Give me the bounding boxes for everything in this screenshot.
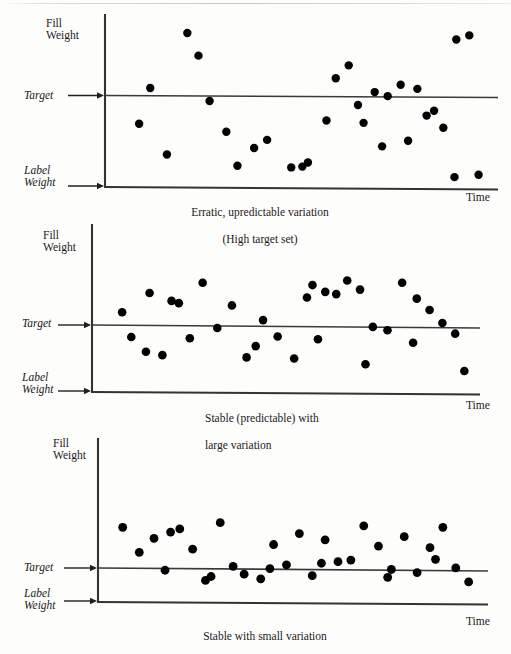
label-weight-label-2: Label Weight [22,372,54,396]
data-point [161,566,170,575]
data-point [346,556,355,565]
data-point [118,308,127,317]
data-point [383,92,391,100]
data-point [332,74,340,82]
data-point [369,323,378,332]
data-point [216,518,225,527]
data-point [308,281,317,290]
chart-panel-erratic: Fill Weight Target Label Weight Time Err… [0,0,511,220]
data-point [259,316,268,325]
chart-panel-stable-small: Fill Weight Target Label Weight Time Sta… [0,430,511,654]
data-point [452,35,460,43]
target-arrow-head [97,92,104,98]
label-weight-line2: Weight [24,600,56,612]
data-point [371,88,379,96]
data-point [142,347,151,356]
data-point [146,84,154,92]
figure-page: Fill Weight Target Label Weight Time Err… [0,0,511,654]
data-point [430,107,438,115]
data-point [229,562,238,571]
data-point [451,329,460,338]
data-point [451,564,460,573]
data-point [242,353,251,362]
target-arrow-head [84,322,91,328]
x-axis [104,187,498,190]
data-point [269,540,278,549]
data-point [321,288,330,297]
data-point [163,150,171,158]
data-point [127,333,136,342]
data-point [158,351,167,360]
data-point [167,297,176,306]
data-point [251,342,260,351]
target-reference-line [98,568,488,571]
y-axis-label-fill-weight-2: Fill Weight [43,230,76,254]
x-axis-label-time-3: Time [466,616,490,628]
data-point [233,162,241,170]
data-point [175,525,184,534]
data-point [396,81,404,89]
data-point [431,555,440,564]
data-point [412,294,421,303]
data-point [256,574,265,583]
x-axis [91,392,480,395]
data-point [222,128,230,136]
data-point [356,285,365,294]
data-point [194,51,202,59]
data-point [198,279,207,288]
label-weight-line2: Weight [24,177,56,189]
data-point [450,173,458,181]
data-point [343,276,352,285]
label-weight-label-3: Label Weight [24,588,56,612]
y-axis-label-line2: Weight [43,242,76,254]
data-point [186,334,195,343]
label-weight-arrow-head [90,598,97,604]
target-arrow-head [90,565,97,571]
data-point [145,289,154,298]
data-point [166,528,175,537]
data-point [207,572,216,581]
caption-line-1: Erratic, upredictable variation [140,206,380,220]
data-point [378,142,386,150]
x-axis-label-time-1: Time [466,192,490,204]
chart-caption-stable-small: Stable with small variation [160,616,370,654]
data-point [361,360,370,369]
target-reference-line [92,325,480,328]
data-point [332,290,341,299]
data-point [425,306,434,315]
caption-line-1: Stable (predictable) with [205,412,435,426]
data-point [282,560,291,569]
data-point [334,557,343,566]
y-axis-label-fill-weight-3: Fill Weight [53,438,86,462]
data-point [322,116,330,124]
label-weight-line2: Weight [22,384,54,396]
data-point [398,279,407,288]
data-point [359,119,367,127]
data-point [426,543,435,552]
data-point [175,299,184,308]
data-point [303,293,312,302]
data-point [298,162,306,170]
data-point [240,570,249,579]
data-point [266,564,275,573]
caption-line-1: Stable with small variation [160,630,370,644]
target-label-3: Target [24,562,53,574]
data-point [474,171,482,179]
scatter-plot-stable-large [0,222,511,427]
data-point [317,559,326,568]
data-point-group [135,29,483,182]
data-point [290,354,299,363]
y-axis-label-fill-weight-1: Fill Weight [46,18,79,42]
data-point [400,532,409,541]
data-point-group [118,518,473,586]
data-point [295,529,304,538]
target-label-1: Target [24,90,53,102]
data-point [321,535,330,544]
data-point [314,335,323,344]
data-point [439,124,447,132]
data-point [188,545,197,554]
data-point [273,332,282,341]
data-point [118,523,127,532]
data-point [250,144,258,152]
label-weight-label-1: Label Weight [24,165,56,189]
